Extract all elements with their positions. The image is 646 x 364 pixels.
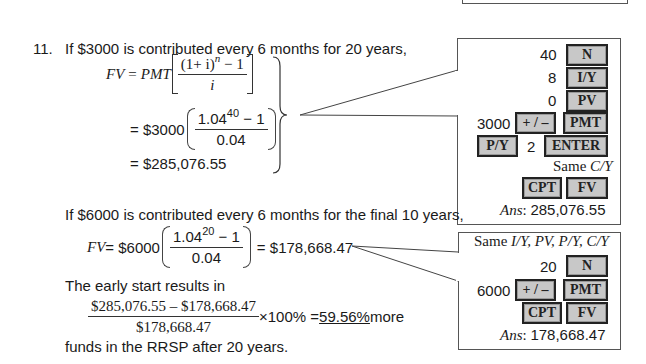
fv2-result: = $178,668.47 <box>257 239 353 256</box>
fv2-tail: − 1 <box>214 228 239 245</box>
formula-eq: = <box>128 66 136 83</box>
formula-step1: = $3000 1.0440 − 1 0.04 <box>130 108 276 150</box>
calc2-ans-label: Ans <box>500 327 523 343</box>
comparison-numerator: $285,076.55 – $178,668.47 <box>88 297 259 317</box>
left-paren <box>187 108 195 150</box>
step1-denominator: 0.04 <box>216 130 245 149</box>
comparison-result: 59.56% <box>319 308 370 325</box>
calc1-ans-label: Ans <box>500 202 523 218</box>
comparison-denominator: $178,668.47 <box>136 317 211 336</box>
fv2-fraction: 1.0420 − 1 0.04 <box>170 228 243 267</box>
formula-fv: FV <box>106 66 124 83</box>
calc1-same-label: Same <box>553 158 590 174</box>
comparison-intro: The early start results in <box>65 277 225 294</box>
key-cpt[interactable]: CPT <box>522 177 562 199</box>
key-iy[interactable]: I/Y <box>566 67 608 89</box>
calc1-n-value: 40 <box>540 46 557 63</box>
calc2-n-value: 20 <box>540 258 557 275</box>
problem-number: 11. <box>33 40 53 57</box>
formula-pmt: PMT <box>141 66 171 83</box>
step1-base: 1.04 <box>198 110 227 127</box>
key-fv-2[interactable]: FV <box>566 302 608 324</box>
formula-general: FV = PMT (1+ i)n − 1 i <box>106 56 253 92</box>
key-enter[interactable]: ENTER <box>544 135 608 157</box>
step1-prefix: = $3000 <box>130 121 185 138</box>
key-pmt[interactable]: PMT <box>563 112 608 134</box>
calc2-pmt-value: 6000 <box>477 282 510 299</box>
calc1-answer: Ans: 285,076.55 <box>500 201 606 219</box>
curly-brace-icon <box>270 56 290 174</box>
key-sign[interactable]: + / – <box>515 112 556 134</box>
fv2-denominator: 0.04 <box>192 248 221 267</box>
fv2-exponent: 20 <box>202 225 214 237</box>
callout-pointer-2 <box>340 230 470 290</box>
right-paren-2 <box>243 226 251 268</box>
key-n[interactable]: N <box>566 44 608 66</box>
key-pv[interactable]: PV <box>566 90 608 112</box>
right-bracket <box>247 54 253 94</box>
calc2-same-label: Same <box>474 233 511 249</box>
key-sign-2[interactable]: + / – <box>515 279 556 301</box>
formula-fv2: FV = $6000 1.0420 − 1 0.04 = $178,668.47 <box>87 226 353 268</box>
key-py[interactable]: P/Y <box>477 135 518 157</box>
formula-fraction: (1+ i)n − 1 i <box>178 55 247 94</box>
fv2-amount: = $6000 <box>105 239 160 256</box>
calc1-same-items: C/Y <box>590 158 613 174</box>
calc2-ans-value: 178,668.47 <box>530 326 605 343</box>
comparison-fraction: $285,076.55 – $178,668.47 $178,668.47 <box>88 297 259 336</box>
key-n-2[interactable]: N <box>566 255 608 277</box>
problem-intro2: If $6000 is contributed every 6 months f… <box>65 206 464 223</box>
step1-fraction: 1.0440 − 1 0.04 <box>195 110 268 149</box>
step2-result: = $285,076.55 <box>130 155 226 172</box>
fv2-base: 1.04 <box>173 228 202 245</box>
key-fv[interactable]: FV <box>566 177 608 199</box>
calc1-pv-value: 0 <box>548 92 556 109</box>
key-cpt-2[interactable]: CPT <box>522 302 562 324</box>
calc1-py-value: 2 <box>527 138 535 155</box>
step1-tail: − 1 <box>239 110 264 127</box>
calc2-same-items: I/Y, PV, P/Y, C/Y <box>511 233 609 249</box>
formula-numerator-tail: − 1 <box>220 56 243 72</box>
key-pmt-2[interactable]: PMT <box>563 279 608 301</box>
comparison-suffix: more <box>370 308 404 325</box>
previous-callout-box <box>462 0 628 4</box>
comparison-multiplier: ×100% = <box>259 308 319 325</box>
callout-pointer-1-cover <box>455 70 461 116</box>
formula-denominator: i <box>210 75 214 94</box>
step1-exponent: 40 <box>227 107 239 119</box>
left-paren-2 <box>162 226 170 268</box>
comparison-conclusion: funds in the RRSP after 20 years. <box>65 338 288 355</box>
calc1-iy-value: 8 <box>548 69 556 86</box>
calc1-pmt-value: 3000 <box>477 115 510 132</box>
formula-numerator: (1+ i) <box>181 56 215 72</box>
comparison-formula: $285,076.55 – $178,668.47 $178,668.47 ×1… <box>88 294 404 338</box>
callout-pointer-2-cover <box>456 252 462 282</box>
calc1-ans-value: 285,076.55 <box>530 201 605 218</box>
calc2-answer: Ans: 178,668.47 <box>500 326 606 344</box>
calc2-same-note: Same I/Y, PV, P/Y, C/Y <box>474 233 609 250</box>
fv2-label: FV <box>87 239 105 256</box>
calc1-same-note: Same C/Y <box>553 158 613 175</box>
